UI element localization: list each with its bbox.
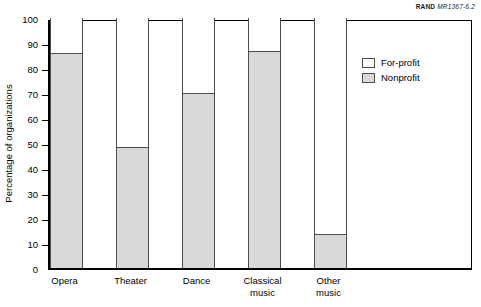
bar-segment-nonprofit xyxy=(51,53,82,268)
legend-label: For-profit xyxy=(381,58,420,68)
x-tick-label-theater: Theater xyxy=(100,275,161,287)
legend-swatch-icon xyxy=(362,58,375,68)
y-tick-label: 60 xyxy=(12,115,38,125)
x-tick-label-dance: Dance xyxy=(166,275,227,287)
chart-legend: For-profitNonprofit xyxy=(362,58,462,88)
source-identifier: RAND MR1367-6.2 xyxy=(416,3,475,10)
legend-item-nonprofit: Nonprofit xyxy=(362,73,462,83)
bar-segment-nonprofit xyxy=(117,147,148,268)
source-code: MR1367-6.2 xyxy=(437,3,475,10)
y-tick-label: 50 xyxy=(12,140,38,150)
y-tick-label: 20 xyxy=(12,215,38,225)
bar-segment-nonprofit xyxy=(249,51,280,269)
bar-other-music xyxy=(314,18,347,268)
y-tick-label: 80 xyxy=(12,65,38,75)
bar-segment-nonprofit xyxy=(315,234,346,268)
x-tick-label-other-music: Other music xyxy=(298,275,359,298)
y-tick-label: 0 xyxy=(12,265,38,275)
x-tick-label-classical-music: Classical music xyxy=(232,275,293,298)
x-tick-label-opera: Opera xyxy=(34,275,95,287)
bar-classical-music xyxy=(248,18,281,268)
bar-theater xyxy=(116,18,149,268)
y-axis-tick-labels: 1009080706050403020100 xyxy=(8,0,38,307)
legend-label: Nonprofit xyxy=(381,73,420,83)
y-tick-label: 90 xyxy=(12,40,38,50)
source-brand: RAND xyxy=(416,3,436,10)
legend-item-for-profit: For-profit xyxy=(362,58,462,68)
y-tick-label: 10 xyxy=(12,240,38,250)
legend-swatch-icon xyxy=(362,73,375,83)
bar-opera xyxy=(50,18,83,268)
chart-figure: RAND MR1367-6.2 Percentage of organizati… xyxy=(0,0,481,307)
y-tick-label: 30 xyxy=(12,190,38,200)
y-tick-label: 40 xyxy=(12,165,38,175)
bar-dance xyxy=(182,18,215,268)
y-tick-label: 100 xyxy=(12,15,38,25)
y-tick-label: 70 xyxy=(12,90,38,100)
bar-segment-nonprofit xyxy=(183,93,214,268)
